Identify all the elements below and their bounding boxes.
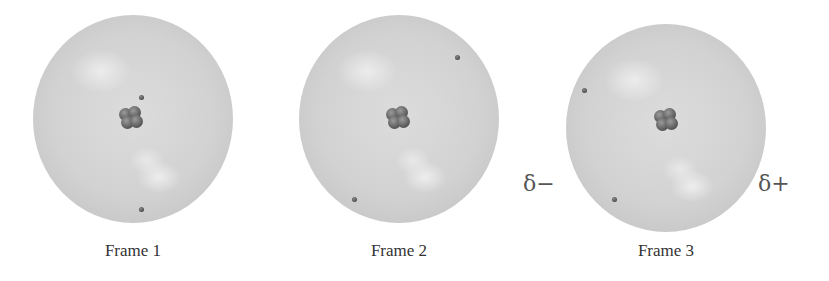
electron [352,197,357,202]
electron [582,88,587,93]
nucleus [654,108,680,134]
nucleus [119,106,145,132]
frame-2: Frame 2 [270,0,530,281]
partial-positive-charge: δ+ [758,171,790,196]
frame-1: Frame 1 [0,0,260,281]
nucleus [386,106,412,132]
frame-label: Frame 2 [299,241,499,261]
electron [139,95,144,100]
electron [139,207,144,212]
frame-label: Frame 1 [33,241,233,261]
electron [612,197,617,202]
frame-label: Frame 3 [566,241,766,261]
partial-negative-charge: δ− [523,171,555,196]
frame-3: δ− δ+ Frame 3 [540,0,800,281]
electron [455,55,460,60]
